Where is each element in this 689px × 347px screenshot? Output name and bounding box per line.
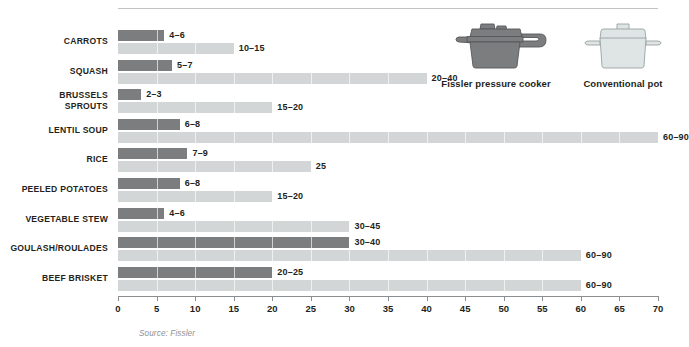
bar-conventional-pot [118,250,581,261]
category-label: CARROTS [0,36,108,47]
bar-fill [118,267,272,278]
axis-tick [388,296,389,301]
bar-value-label: 2–3 [146,89,162,100]
bar-value-label: 4–6 [169,30,185,41]
bar-fill [118,73,427,84]
bar-value-label: 60–90 [586,280,612,291]
axis-tick-label: 20 [267,303,278,314]
bar-value-label: 15–20 [277,102,303,113]
category-label: SQUASH [0,66,108,77]
axis-tick-label: 35 [383,303,394,314]
bar-fill [118,132,658,143]
bar-fill [118,178,180,189]
bar-conventional-pot [118,73,427,84]
bar-pressure-cooker [118,119,180,130]
category-label: RICE [0,154,108,165]
axis-tick-label: 55 [537,303,548,314]
axis-tick-label: 15 [228,303,239,314]
bar-pressure-cooker [118,208,164,219]
bar-conventional-pot [118,221,349,232]
bar-value-label: 6–8 [185,178,201,189]
bar-value-label: 10–15 [239,43,265,54]
bar-fill [118,89,141,100]
category-label: VEGETABLE STEW [0,214,108,225]
axis-tick [581,296,582,301]
axis-tick [195,296,196,301]
bar-value-label: 20–40 [432,73,458,84]
axis-tick [542,296,543,301]
bar-conventional-pot [118,191,272,202]
bar-conventional-pot [118,280,581,291]
bar-value-label: 30–45 [354,221,380,232]
axis-tick [504,296,505,301]
bar-value-label: 7–9 [192,148,208,159]
bar-pressure-cooker [118,89,141,100]
bar-fill [118,208,164,219]
bar-pressure-cooker [118,60,172,71]
axis-tick-label: 40 [421,303,432,314]
bar-value-label: 25 [316,161,326,172]
axis-tick [311,296,312,301]
bar-fill [118,60,172,71]
bar-fill [118,30,164,41]
axis-tick-label: 70 [653,303,664,314]
category-label: PEELED POTATOES [0,184,108,195]
bar-conventional-pot [118,102,272,113]
axis-tick [658,296,659,301]
bar-value-label: 5–7 [177,60,193,71]
bar-conventional-pot [118,132,658,143]
bar-pressure-cooker [118,267,272,278]
category-label: LENTIL SOUP [0,125,108,136]
bar-value-label: 4–6 [169,208,185,219]
bar-fill [118,43,234,54]
axis-tick-label: 45 [460,303,471,314]
axis-tick-label: 0 [115,303,120,314]
category-label: BEEF BRISKET [0,273,108,284]
bar-value-label: 6–8 [185,119,201,130]
bar-pressure-cooker [118,178,180,189]
bar-conventional-pot [118,43,234,54]
bar-value-label: 30–40 [354,237,380,248]
bar-fill [118,221,349,232]
axis-tick-label: 5 [154,303,159,314]
bar-fill [118,280,581,291]
axis-tick [157,296,158,301]
bar-fill [118,250,581,261]
source-note: Source: Fissler [139,329,195,338]
category-label: BRUSSELS SPROUTS [0,90,108,111]
bar-fill [118,237,349,248]
axis-tick [427,296,428,301]
axis-tick-label: 25 [306,303,317,314]
bar-pressure-cooker [118,148,187,159]
axis-tick-label: 60 [576,303,587,314]
category-label: GOULASH/ROULADES [0,243,108,254]
bar-fill [118,102,272,113]
axis-tick [234,296,235,301]
bar-conventional-pot [118,161,311,172]
bar-pressure-cooker [118,237,349,248]
bar-fill [118,161,311,172]
axis-tick [118,296,119,301]
axis-tick-label: 10 [190,303,201,314]
bar-value-label: 60–90 [663,132,689,143]
axis-tick [272,296,273,301]
bar-fill [118,148,187,159]
bar-value-label: 60–90 [586,250,612,261]
axis-tick-label: 50 [498,303,509,314]
axis-tick [465,296,466,301]
bar-value-label: 15–20 [277,191,303,202]
axis-tick [349,296,350,301]
bar-fill [118,191,272,202]
axis-tick-label: 30 [344,303,355,314]
bar-fill [118,119,180,130]
axis-tick-label: 65 [614,303,625,314]
bar-value-label: 20–25 [277,267,303,278]
bar-pressure-cooker [118,30,164,41]
axis-tick [619,296,620,301]
